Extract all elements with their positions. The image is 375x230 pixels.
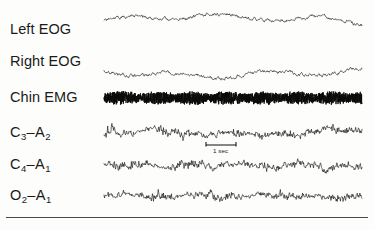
trace-o2-a1 bbox=[104, 189, 362, 201]
electrode-name: C bbox=[10, 156, 21, 172]
reference-name: A bbox=[35, 156, 45, 172]
reference-name: A bbox=[35, 124, 45, 140]
electrode-name: O bbox=[10, 187, 21, 203]
electrode-dash: – bbox=[26, 156, 34, 172]
trace-left-eog bbox=[104, 13, 362, 26]
channel-label-chin-emg: Chin EMG bbox=[10, 90, 78, 105]
electrode-index: 3 bbox=[21, 131, 26, 142]
electrode-dash: – bbox=[27, 187, 35, 203]
separator-rule bbox=[6, 217, 368, 218]
trace-chin-emg bbox=[104, 91, 362, 105]
trace-c3-a2 bbox=[104, 123, 362, 140]
calibration-bar bbox=[206, 142, 236, 147]
electrode-dash: – bbox=[26, 124, 34, 140]
electrode-name: C bbox=[10, 124, 21, 140]
channel-label-left-eog: Left EOG bbox=[10, 22, 71, 37]
polysomnogram-figure: Left EOG Right EOG Chin EMG C3–A2 C4–A1 … bbox=[0, 0, 375, 230]
channel-label-right-eog: Right EOG bbox=[10, 54, 81, 69]
electrode-index: 4 bbox=[21, 163, 26, 174]
reference-index: 1 bbox=[46, 194, 51, 205]
trace-c4-a1 bbox=[104, 159, 362, 174]
reference-index: 2 bbox=[45, 131, 50, 142]
channel-label-c3-a2: C3–A2 bbox=[10, 125, 50, 140]
channel-label-o2-a1: O2–A1 bbox=[10, 188, 51, 203]
calibration-label: 1 sec bbox=[213, 147, 228, 154]
channel-label-text: Left EOG bbox=[10, 21, 71, 37]
reference-name: A bbox=[36, 187, 46, 203]
channel-label-text: Right EOG bbox=[10, 53, 81, 69]
electrode-index: 2 bbox=[22, 194, 27, 205]
trace-right-eog bbox=[104, 67, 362, 80]
channel-label-text: Chin EMG bbox=[10, 89, 78, 105]
channel-label-c4-a1: C4–A1 bbox=[10, 157, 50, 172]
reference-index: 1 bbox=[45, 163, 50, 174]
